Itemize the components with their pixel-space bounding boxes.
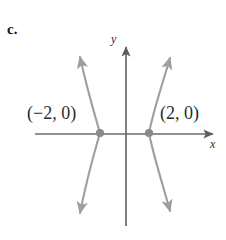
right-vertex-label: (2, 0) [160,104,199,122]
x-axis-label: x [210,138,215,150]
left-vertex-label: (−2, 0) [27,104,76,122]
left-vertex-dot [96,129,104,137]
right-branch-lower [149,133,170,211]
figure-panel: c. y x (−2, 0) (2, 0) [0,0,226,240]
right-vertex-dot [145,129,153,137]
y-axis-label: y [111,33,116,45]
left-branch-upper [80,57,100,133]
left-branch-lower [80,133,100,213]
